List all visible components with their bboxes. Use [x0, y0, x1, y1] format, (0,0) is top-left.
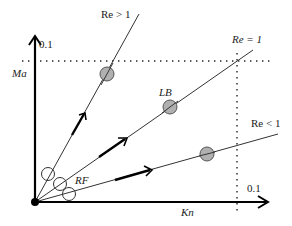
- re-greater-1-arrow: [72, 114, 84, 135]
- y-tick-label: 0.1: [39, 38, 53, 50]
- re-less-1-label: Re < 1: [251, 117, 280, 129]
- y-axis-label: Ma: [11, 67, 27, 79]
- re-equal-1-label: Re = 1: [231, 33, 262, 45]
- re-equal-1-arrow: [99, 139, 125, 157]
- origin-dot: [31, 198, 39, 206]
- lb-label: LB: [158, 86, 172, 98]
- re-equal-1-line: [35, 50, 253, 202]
- diagram-canvas: Re > 1 Re = 1 Re < 1 LB RF 0.1 Ma 0.1 Kn: [0, 0, 292, 226]
- re-less-1-arrow: [115, 170, 150, 180]
- x-axis-label: Kn: [180, 206, 194, 218]
- re-greater-1-label: Re > 1: [101, 8, 130, 20]
- rf-label: RF: [74, 174, 89, 186]
- x-tick-label: 0.1: [247, 182, 261, 194]
- re-less-1-line: [35, 134, 278, 202]
